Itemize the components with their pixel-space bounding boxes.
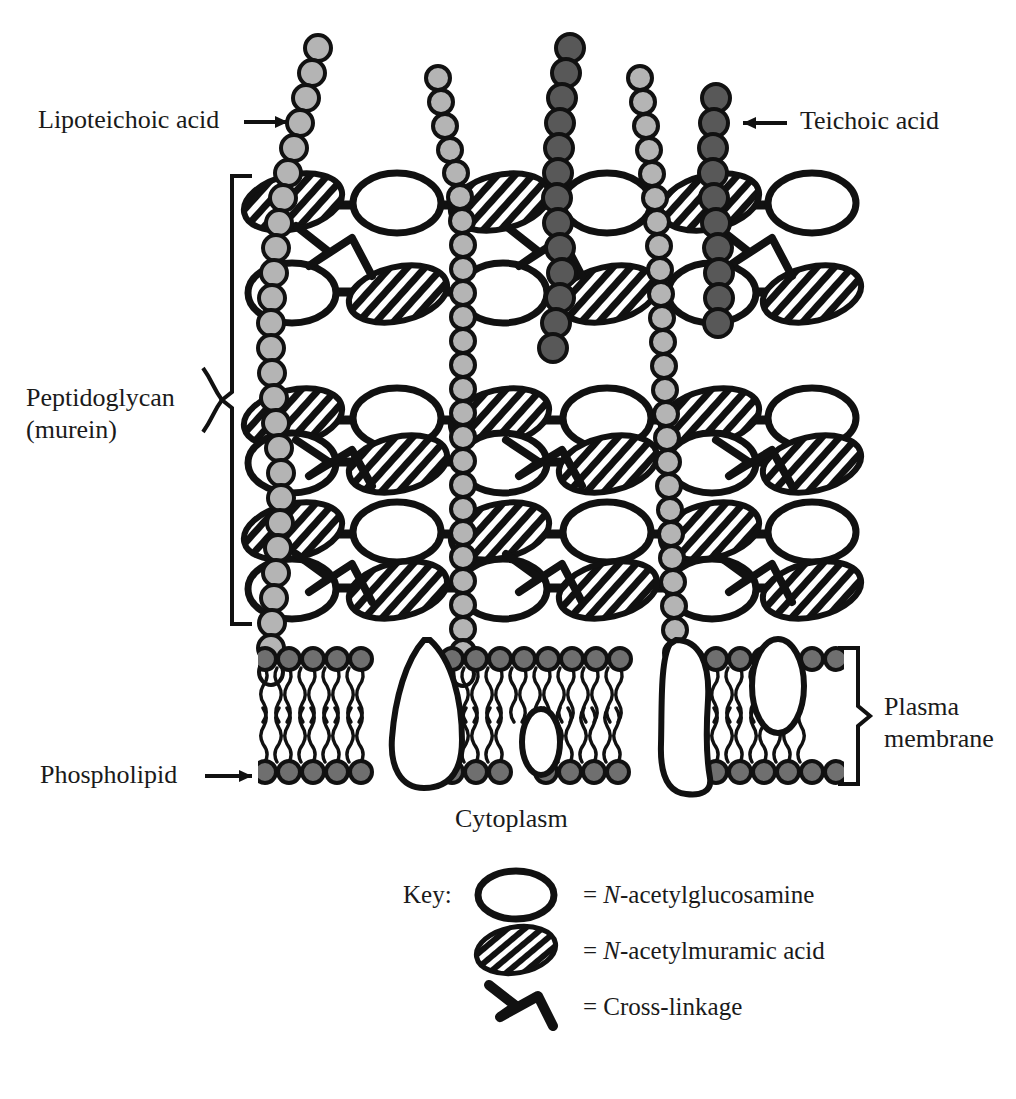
membrane-protein-large-right [661,640,710,794]
cytoplasm-label: Cytoplasm [455,804,568,835]
lipoteichoic-acid-label: Lipoteichoic acid [38,105,219,136]
key-swatch-nam [473,920,560,979]
teichoic-acid-label: Teichoic acid [800,106,939,137]
peptidoglycan-label-line2: (murein) [26,415,117,446]
glycan-row-3 [238,379,856,454]
lipoteichoic-acid-arrow [244,116,288,128]
key-item-crosslinkage: = Cross-linkage [583,992,742,1022]
key-equals-nam: = [583,937,597,964]
phospholipid-label: Phospholipid [40,760,177,791]
membrane-protein-small-lower [522,709,560,775]
key-equals-nag: = [583,881,597,908]
key-swatch-crosslinkage [489,985,553,1026]
key-item-nag: = N-acetylglucosamine [583,880,814,910]
key-italic-n-nag: N [603,881,620,908]
cell-wall-illustration [0,0,1016,1099]
plasma-membrane-label-line1: Plasma [884,692,959,723]
membrane-protein-small-upper [752,639,804,733]
key-text-crosslinkage: Cross-linkage [603,993,742,1020]
phospholipid-arrow [205,770,252,782]
peptidoglycan-bracket [222,176,252,624]
key-italic-n-nam: N [603,937,620,964]
key-text-nam: -acetylmuramic acid [620,937,825,964]
peptidoglycan-label-line1: Peptidoglycan [26,383,175,414]
key-item-nam: = N-acetylmuramic acid [583,936,825,966]
figure-canvas: Lipoteichoic acid Teichoic acid Peptidog… [0,0,1016,1099]
teichoic-acid-arrow [743,117,787,129]
plasma-membrane [254,639,847,794]
glycan-row-5 [238,493,856,568]
key-title: Key: [403,880,452,910]
key-swatch-nag [478,871,554,919]
key-text-nag: -acetylglucosamine [620,881,814,908]
plasma-membrane-label-line2: membrane [884,724,994,755]
key-equals-crosslinkage: = [583,993,597,1020]
